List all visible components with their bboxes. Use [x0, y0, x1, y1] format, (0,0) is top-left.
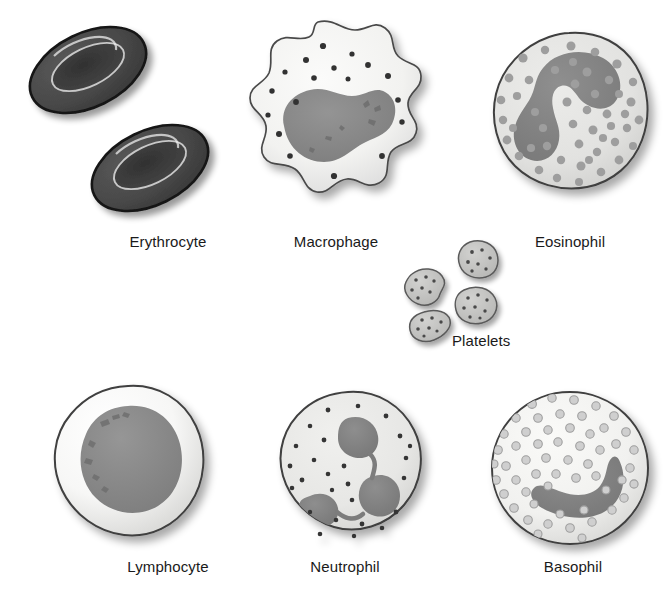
label-erythrocyte: Erythrocyte [130, 233, 207, 250]
label-lymphocyte: Lymphocyte [127, 558, 208, 575]
lymphocyte-svg [42, 382, 222, 557]
platelet-4 [410, 310, 451, 341]
macrophage-cell [250, 21, 421, 192]
eosinophil-svg [483, 28, 663, 213]
neutrophil-cell [281, 392, 421, 538]
lymphocyte-cell [55, 386, 204, 536]
erythrocyte-cell-2 [78, 108, 222, 229]
eosinophil-figure [483, 28, 663, 213]
platelet-3 [455, 287, 496, 324]
erythrocyte-svg [18, 18, 238, 218]
label-neutrophil: Neutrophil [310, 558, 379, 575]
basophil-figure [486, 388, 661, 553]
neutrophil-svg [266, 388, 436, 553]
lymphocyte-figure [42, 382, 222, 557]
erythrocyte-cell-1 [16, 10, 160, 131]
neutrophil-figure [266, 388, 436, 553]
erythrocyte-figure [18, 18, 238, 218]
macrophage-svg [222, 16, 432, 216]
eosinophil-cell [494, 33, 648, 189]
basophil-cell [490, 392, 648, 544]
platelet-1 [458, 241, 498, 278]
macrophage-figure [222, 16, 432, 216]
platelet-2 [405, 269, 445, 305]
label-platelets: Platelets [452, 332, 510, 349]
label-macrophage: Macrophage [294, 233, 378, 250]
label-eosinophil: Eosinophil [535, 233, 605, 250]
blood-cells-diagram: Erythrocyte [0, 0, 664, 590]
label-basophil: Basophil [544, 558, 602, 575]
basophil-svg [486, 388, 661, 553]
